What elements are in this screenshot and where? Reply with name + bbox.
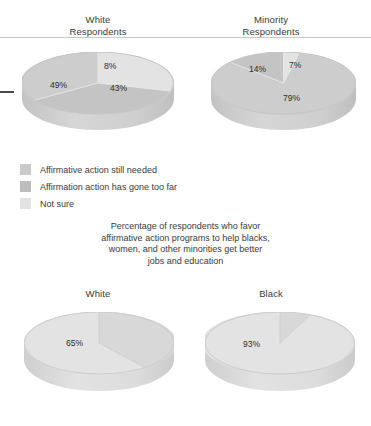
pie-label-minority-7: 7%	[289, 60, 301, 70]
chart-title-black-favor: Black	[231, 288, 311, 300]
figure-caption: Percentage of respondents who favor affi…	[63, 221, 308, 267]
legend-item-label: Affirmative action still needed	[40, 165, 157, 175]
pie-label-black-favor-93: 93%	[243, 339, 260, 349]
chart-title-line2: Respondents	[64, 26, 131, 37]
legend-swatch-icon	[20, 198, 31, 209]
legend-item-label: Affirmation action has gone too far	[40, 182, 177, 192]
chart-title-line1: Black	[259, 288, 283, 299]
chart-title-line2: Respondents	[237, 26, 304, 37]
chart-title-white-favor: White	[58, 288, 138, 300]
chart-title-white-respondents: White Respondents	[58, 14, 138, 37]
header-rule	[0, 37, 371, 38]
pie-black-favor-graphic	[205, 312, 355, 392]
pie-minority-respondents: 79% 14% 7%	[211, 52, 356, 114]
caption-line-2: affirmative action programs to help blac…	[63, 233, 308, 245]
left-tick-dash	[0, 91, 14, 93]
legend-swatch-icon	[20, 181, 31, 192]
pie-white-favor-graphic	[24, 312, 174, 392]
figure-canvas: White Respondents	[0, 0, 371, 426]
legend-swatch-icon	[20, 164, 31, 175]
caption-line-1: Percentage of respondents who favor	[63, 221, 308, 233]
chart-title-line1: White	[81, 14, 116, 25]
caption-line-4: jobs and education	[63, 256, 308, 268]
pie-white-respondents-graphic	[22, 52, 174, 130]
pie-minority-respondents-graphic	[211, 52, 356, 130]
chart-title-line1: White	[86, 288, 111, 299]
pie-label-minority-79: 79%	[283, 93, 300, 103]
legend-item-label: Not sure	[40, 199, 74, 209]
pie-label-minority-14: 14%	[249, 64, 266, 74]
pie-white-favor: 65%	[24, 312, 174, 374]
legend-item-not-sure: Not sure	[20, 195, 177, 212]
pie-black-favor: 93%	[205, 312, 355, 374]
legend: Affirmative action still needed Affirmat…	[20, 161, 177, 212]
pie-label-white-43: 43%	[110, 83, 127, 93]
pie-label-white-49: 49%	[50, 80, 67, 90]
legend-item-gone-too-far: Affirmation action has gone too far	[20, 178, 177, 195]
chart-title-minority-respondents: Minority Respondents	[231, 14, 311, 37]
caption-line-3: women, and other minorities get better	[63, 244, 308, 256]
legend-item-affirmative-needed: Affirmative action still needed	[20, 161, 177, 178]
pie-white-respondents: 49% 43% 8%	[22, 52, 174, 114]
pie-label-white-8: 8%	[104, 61, 116, 71]
chart-title-line1: Minority	[249, 14, 293, 25]
pie-label-white-favor-65: 65%	[66, 338, 83, 348]
